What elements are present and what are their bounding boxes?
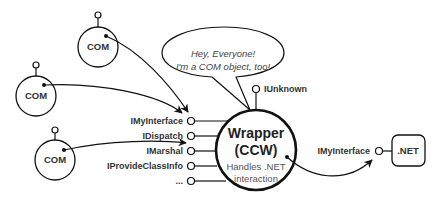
com-label: COM bbox=[44, 154, 66, 165]
bubble-line-1: Hey, Everyone! bbox=[191, 48, 256, 59]
com-label: COM bbox=[25, 90, 47, 101]
iunknown-label: IUnknown bbox=[264, 84, 307, 94]
com2-arrow bbox=[44, 85, 182, 113]
lollipop-icon bbox=[52, 127, 58, 133]
com-object-1: COM bbox=[78, 12, 118, 67]
wrapper-desc-1: Handles .NET bbox=[226, 161, 285, 172]
interface-label: IProvideClassInfo bbox=[107, 161, 184, 171]
lollipop-icon bbox=[253, 86, 260, 93]
wrapper-title: Wrapper bbox=[228, 125, 285, 141]
wrapper-ccw: Wrapper (CCW) Handles .NET interaction bbox=[216, 110, 296, 190]
lollipop-icon bbox=[376, 148, 383, 155]
interface-label: IMarshal bbox=[146, 146, 183, 156]
interface-label: IMyInterface bbox=[130, 116, 183, 126]
com-object-2: COM bbox=[16, 62, 56, 116]
speech-bubble: Hey, Everyone! I'm a COM object, too! bbox=[162, 27, 284, 110]
dotnet-label: .NET bbox=[397, 145, 419, 156]
iunknown-interface: IUnknown bbox=[253, 84, 308, 111]
bubble-line-2: I'm a COM object, too! bbox=[176, 61, 271, 72]
wrapper-desc-2: interaction bbox=[234, 173, 278, 184]
dotnet-interface-label: IMyInterface bbox=[317, 146, 370, 156]
com-object-3: COM bbox=[35, 127, 75, 180]
lollipop-icon bbox=[33, 62, 39, 68]
com-label: COM bbox=[87, 41, 109, 52]
ccw-diagram: COM COM COM Hey, Everyone! I'm a COM obj… bbox=[0, 0, 440, 205]
wrapper-to-dotnet-arrow bbox=[287, 157, 372, 176]
interface-label: ... bbox=[175, 176, 183, 186]
wrapper-subtitle: (CCW) bbox=[235, 142, 278, 158]
lollipop-icon bbox=[95, 12, 101, 18]
interface-label: IDispatch bbox=[142, 131, 183, 141]
